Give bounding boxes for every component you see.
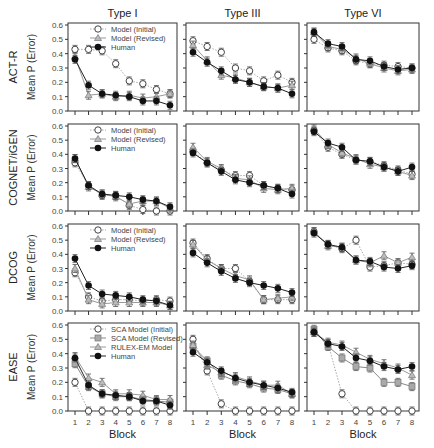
x-tick-label: 7 [276,418,281,427]
marker-filled [395,66,402,73]
marker-filled [289,289,296,296]
marker-filled [112,292,119,299]
x-tick-label: 8 [290,418,295,427]
marker-filled [260,83,267,90]
marker-filled [381,63,388,70]
marker-square [381,379,387,385]
marker-filled [95,353,102,360]
marker-filled [99,291,106,298]
x-tick-label: 4 [354,418,359,427]
marker-triangle [409,372,416,378]
legend-label: Model (Initial) [111,25,157,34]
marker-filled [325,241,332,248]
marker-open [153,86,159,92]
marker-filled [275,285,282,292]
marker-filled [395,168,402,175]
marker-filled [339,244,346,251]
marker-filled [218,168,225,175]
marker-open [381,408,387,414]
marker-open [246,68,252,74]
y-tick-label: 0.0 [52,207,64,216]
x-axis-label: Block [109,428,136,440]
x-tick-label: 3 [340,418,345,427]
legend-label: Human [111,43,135,52]
marker-open [353,408,359,414]
marker-filled [218,68,225,75]
legend-label: Model (Initial) [111,226,157,235]
marker-open [99,408,105,414]
marker-open [72,46,78,52]
marker-filled [204,260,211,267]
marker-open [95,26,101,32]
marker-filled [353,355,360,362]
marker-open [204,43,210,49]
column-title: Type VI [344,7,381,19]
marker-open [72,379,78,385]
y-tick-label: 0.6 [52,122,64,131]
marker-filled [367,358,374,365]
marker-filled [72,155,79,162]
marker-square [339,355,345,361]
marker-open [85,408,91,414]
panel-actr-2 [183,23,299,115]
marker-filled [409,363,416,370]
x-tick-label: 6 [382,418,387,427]
y-tick-label: 0.5 [52,35,64,44]
marker-filled [260,282,267,289]
marker-open [113,61,119,67]
marker-filled [126,294,133,301]
marker-filled [325,140,332,147]
marker-filled [339,144,346,151]
marker-filled [72,255,79,262]
column-title: Type I [108,7,138,19]
marker-square [353,364,359,370]
plot-frame [186,23,299,111]
x-tick-label: 4 [113,418,118,427]
marker-filled [409,65,416,72]
y-tick-label: 0.2 [52,78,64,87]
marker-filled [112,392,119,399]
marker-filled [85,182,92,189]
x-tick-label: 8 [168,418,173,427]
marker-filled [167,402,174,409]
marker-filled [246,379,253,386]
y-tick-label: 0.3 [52,265,64,274]
marker-filled [85,382,92,389]
x-tick-label: 6 [261,418,266,427]
x-tick-label: 3 [219,418,224,427]
y-tick-label: 0.6 [52,21,64,30]
y-tick-label: 0.0 [52,307,64,316]
marker-open [311,36,317,42]
marker-filled [126,93,133,100]
marker-filled [311,329,318,336]
y-tick-label: 0.0 [52,407,64,416]
marker-filled [95,44,102,51]
marker-open [140,408,146,414]
row-label: EASE [7,352,19,381]
x-axis-label: Block [350,428,377,440]
plot-frame [186,124,299,211]
x-tick-label: 3 [100,418,105,427]
marker-filled [95,145,102,152]
marker-triangle [409,254,416,260]
legend-label: SCA Model (Revised) [111,334,183,343]
marker-open [261,408,267,414]
x-tick-label: 1 [73,418,78,427]
legend-label: Human [111,352,135,361]
x-tick-label: 1 [191,418,196,427]
y-tick-label: 0.1 [52,393,64,402]
panel-actr-3 [304,23,419,115]
x-axis-label: Block [229,428,256,440]
series-line [193,147,292,190]
marker-filled [289,389,296,396]
marker-triangle [381,252,388,258]
marker-filled [325,340,332,347]
marker-filled [218,368,225,375]
marker-filled [167,102,174,109]
marker-filled [381,164,388,171]
marker-square [395,379,401,385]
marker-open [153,208,159,214]
marker-filled [246,279,253,286]
y-tick-label: 0.2 [52,378,64,387]
row-label: DCOG [7,251,19,284]
